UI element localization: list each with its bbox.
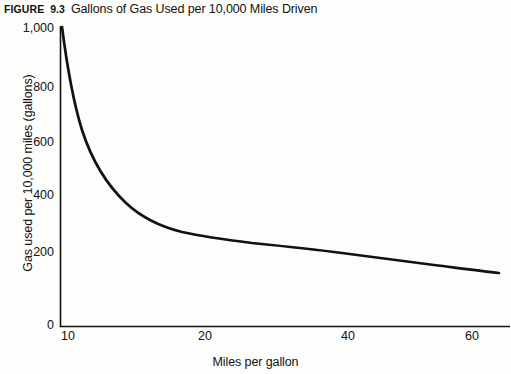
x-tick-20: 20	[185, 329, 225, 343]
x-tick-40: 40	[328, 329, 368, 343]
figure-number: 9.3	[50, 3, 65, 15]
figure-root: FIGURE 9.3 Gallons of Gas Used per 10,00…	[0, 0, 511, 374]
plot-area: Gas used per 10,000 miles (gallons) 1,00…	[0, 18, 511, 338]
x-tick-labels: 10 20 40 60	[0, 18, 511, 358]
figure-title: Gallons of Gas Used per 10,000 Miles Dri…	[71, 2, 318, 16]
x-axis-title: Miles per gallon	[0, 355, 511, 369]
x-tick-10: 10	[48, 329, 88, 343]
x-tick-60: 60	[452, 329, 492, 343]
figure-label: FIGURE	[4, 3, 44, 15]
